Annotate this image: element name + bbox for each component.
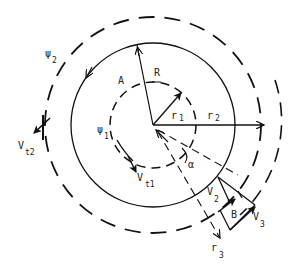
label-v2: V [207,186,213,197]
solid-circle-tangent-arrow [86,67,92,78]
label-psi2: ψ [45,48,51,59]
label-alpha: α [188,159,194,170]
r3-dashed-line [158,132,220,238]
label-r3: r [211,242,217,253]
label-vt1: V [137,172,143,183]
label-psi1-sub: 1 [104,132,109,141]
label-psi1: ψ [97,124,103,135]
label-r2-sub: 2 [215,114,220,123]
label-vt2-sub: t2 [25,148,35,157]
radius-R-arrow [138,47,140,56]
label-r1-sub: 1 [179,114,184,123]
label-v2-sub: 2 [214,195,219,204]
label-vt1-sub: t1 [145,180,155,189]
label-r2: r [207,110,213,121]
vortex-diagram: A R r 1 r 2 r 3 ψ 1 ψ 2 V t1 V t2 V 2 V … [0,0,295,276]
label-B: B [231,209,237,220]
label-v3: V [253,211,259,222]
v-rect-top [218,177,255,205]
label-r1: r [171,110,177,121]
outermost-dashed-arc [240,80,282,215]
radius-R-line [137,45,153,125]
vt1-arrow [128,156,136,172]
label-r3-sub: 3 [219,251,224,260]
label-v3-sub: 3 [260,220,265,229]
label-R: R [154,67,161,78]
radial-dashed-line-2 [158,130,238,175]
label-psi2-sub: 2 [52,56,57,65]
v-rect-lower-leg [220,210,230,230]
label-A: A [118,75,124,86]
label-vt2: V [18,140,24,151]
